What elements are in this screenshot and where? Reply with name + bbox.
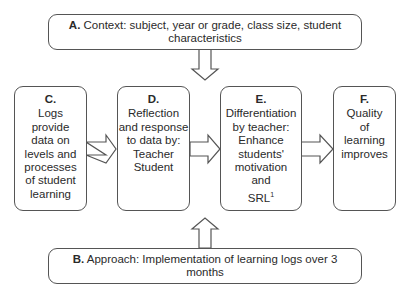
box-d-label: D. [118, 93, 189, 106]
box-b-text: Approach: Implementation of learning log… [87, 253, 338, 278]
arrow-right-icon [86, 135, 116, 163]
box-c-logs: C. Logs provide data on levels and proce… [14, 86, 87, 211]
box-a-text: Context: subject, year or grade, class s… [84, 19, 342, 44]
box-d-text: Reflection and response to data by: Teac… [118, 107, 189, 174]
arrow-down-icon [192, 49, 218, 80]
arrow-right-icon [190, 135, 220, 163]
box-d-reflection: D. Reflection and response to data by: T… [117, 86, 190, 211]
box-a-context: A. Context: subject, year or grade, clas… [48, 14, 362, 50]
arrow-right-icon [301, 135, 333, 163]
box-c-label: C. [15, 93, 86, 106]
box-f-text: Quality of learning improves [334, 107, 395, 161]
box-f-quality: F. Quality of learning improves [333, 86, 396, 211]
box-e-label: E. [221, 93, 301, 106]
box-c-text: Logs provide data on levels and processe… [15, 107, 86, 201]
box-f-label: F. [334, 93, 395, 106]
arrow-up-icon [192, 218, 218, 248]
box-a-label: A. [69, 19, 81, 31]
box-b-label: B. [73, 253, 85, 265]
footnote-marker: 1 [270, 191, 274, 198]
box-e-differentiation: E. Differentiation by teacher: Enhance s… [220, 86, 302, 211]
box-b-approach: B. Approach: Implementation of learning … [48, 248, 362, 284]
box-e-text: Differentiation by teacher: Enhance stud… [226, 107, 297, 203]
